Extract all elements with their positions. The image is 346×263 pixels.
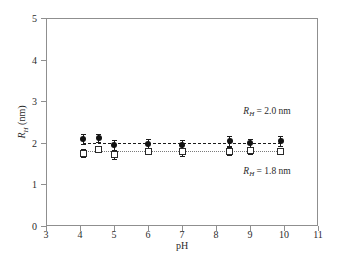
annot-upper-subscript: H bbox=[249, 110, 254, 118]
error-bar-cap bbox=[278, 146, 283, 147]
y-axis-tick-label: 4 bbox=[32, 56, 37, 66]
error-bar-cap bbox=[278, 136, 283, 137]
plot-area: 01234534567891011RH = 2.0 nmRH = 1.8 nm bbox=[46, 18, 318, 226]
x-axis-tick-label: 4 bbox=[78, 229, 83, 240]
x-axis-tick-label: 6 bbox=[146, 229, 151, 240]
x-axis-tick-label: 3 bbox=[44, 229, 49, 240]
error-bar-cap bbox=[227, 136, 232, 137]
error-bar-cap bbox=[81, 134, 86, 135]
y-axis-tick: 4 bbox=[41, 60, 46, 61]
marker-filled-circle bbox=[80, 136, 86, 142]
marker-open-square bbox=[145, 148, 152, 155]
y-axis-tick-label: 2 bbox=[32, 139, 37, 149]
error-bar-cap bbox=[96, 142, 101, 143]
y-axis-tick: 2 bbox=[41, 143, 46, 144]
error-bar-cap bbox=[227, 155, 232, 156]
x-axis-tick-label: 8 bbox=[214, 229, 219, 240]
marker-filled-circle bbox=[227, 138, 233, 144]
marker-open-square bbox=[95, 146, 102, 153]
x-axis-title-text: pH bbox=[176, 240, 188, 251]
x-axis-tick-label: 5 bbox=[112, 229, 117, 240]
y-axis-title: RH (nm) bbox=[16, 105, 30, 138]
annot-lower: RH = 1.8 nm bbox=[243, 165, 290, 178]
marker-open-square bbox=[226, 148, 233, 155]
figure-container: 01234534567891011RH = 2.0 nmRH = 1.8 nm … bbox=[0, 0, 346, 263]
marker-open-square bbox=[111, 151, 118, 158]
marker-filled-circle bbox=[96, 135, 102, 141]
error-bar-cap bbox=[81, 157, 86, 158]
error-bar-cap bbox=[112, 159, 117, 160]
x-axis-tick-label: 10 bbox=[279, 229, 289, 240]
y-axis-tick: 1 bbox=[41, 184, 46, 185]
marker-open-square bbox=[277, 148, 284, 155]
marker-filled-circle bbox=[111, 142, 117, 148]
y-axis-title-symbol: R bbox=[16, 132, 27, 138]
marker-open-square bbox=[80, 150, 87, 157]
x-axis-tick-label: 9 bbox=[248, 229, 253, 240]
error-bar-cap bbox=[180, 156, 185, 157]
error-bar-cap bbox=[112, 140, 117, 141]
marker-open-square bbox=[179, 148, 186, 155]
annot-upper: RH = 2.0 nm bbox=[243, 105, 290, 118]
marker-filled-circle bbox=[145, 141, 151, 147]
marker-open-square bbox=[247, 147, 254, 154]
y-axis-tick: 5 bbox=[41, 18, 46, 19]
x-axis-tick-label: 11 bbox=[313, 229, 323, 240]
error-bar-cap bbox=[180, 140, 185, 141]
y-axis-title-unit: (nm) bbox=[16, 105, 27, 124]
y-axis-title-subscript: H bbox=[22, 127, 30, 132]
error-bar-cap bbox=[81, 144, 86, 145]
x-axis-title: pH bbox=[46, 240, 318, 251]
x-axis-tick-label: 7 bbox=[180, 229, 185, 240]
y-axis-tick-label: 5 bbox=[32, 14, 37, 24]
y-axis-tick: 3 bbox=[41, 101, 46, 102]
y-axis-tick-label: 1 bbox=[32, 180, 37, 190]
marker-filled-circle bbox=[278, 138, 284, 144]
y-axis-tick-label: 3 bbox=[32, 97, 37, 107]
marker-filled-circle bbox=[247, 140, 253, 146]
y-axis-tick-label: 0 bbox=[32, 222, 37, 232]
annot-upper-text: = 2.0 nm bbox=[257, 105, 291, 115]
annot-lower-text: = 1.8 nm bbox=[257, 165, 291, 175]
annot-lower-subscript: H bbox=[249, 170, 254, 178]
